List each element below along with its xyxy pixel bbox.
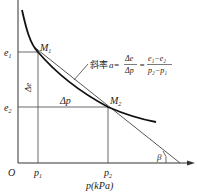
p1-label: p1 bbox=[33, 167, 42, 179]
m2-label: M2 bbox=[109, 95, 121, 107]
p2-label: p2 bbox=[103, 167, 112, 179]
e-p-diagram: e1 e2 M1 M2 Δe Δp β O p1 p2 p(kPa) 斜率 a=… bbox=[0, 0, 197, 194]
delta-p-label: Δp bbox=[59, 95, 71, 106]
formula-frac2-num: e₁−e₂ bbox=[148, 54, 166, 63]
m1-label: M1 bbox=[39, 42, 51, 54]
slope-formula: 斜率 a= Δe Δp = e₁−e₂ p₂−p₁ bbox=[90, 54, 172, 75]
formula-frac1-den: Δp bbox=[124, 66, 134, 75]
x-axis-arrow-icon bbox=[187, 161, 195, 166]
formula-frac1-num: Δe bbox=[124, 54, 134, 63]
compression-curve bbox=[22, 10, 156, 122]
formula-prefix: 斜率 bbox=[90, 59, 108, 70]
formula-eq: = bbox=[139, 60, 145, 70]
delta-e-label: Δe bbox=[23, 83, 33, 93]
e1-label: e1 bbox=[4, 47, 11, 59]
formula-a: a= bbox=[109, 60, 120, 70]
x-axis-label: p(kPa) bbox=[85, 180, 114, 192]
e2-label: e2 bbox=[4, 102, 11, 114]
beta-label: β bbox=[156, 152, 162, 162]
formula-frac2-den: p₂−p₁ bbox=[147, 66, 167, 75]
origin-label: O bbox=[8, 167, 15, 178]
formula-leader bbox=[74, 64, 88, 80]
beta-angle-arc bbox=[163, 151, 166, 163]
diagram-canvas: e1 e2 M1 M2 Δe Δp β O p1 p2 p(kPa) 斜率 a=… bbox=[0, 0, 197, 194]
